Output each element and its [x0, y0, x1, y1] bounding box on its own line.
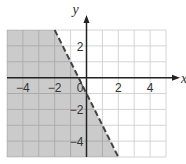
x-tick-label: −2 [48, 81, 62, 95]
inequality-graph: −4−2242−2−40xy [0, 0, 186, 164]
y-tick-label: −2 [70, 103, 84, 117]
x-axis-label: x [180, 71, 186, 86]
y-tick-label: 2 [77, 40, 84, 54]
y-axis-arrow-icon [84, 15, 90, 23]
x-tick-label: −4 [16, 81, 30, 95]
y-tick-label: −4 [70, 135, 84, 149]
y-axis-label: y [71, 2, 80, 17]
x-axis-arrow-icon [172, 75, 180, 81]
origin-label: 0 [77, 81, 84, 95]
x-tick-label: 4 [147, 81, 154, 95]
x-tick-label: 2 [115, 81, 122, 95]
